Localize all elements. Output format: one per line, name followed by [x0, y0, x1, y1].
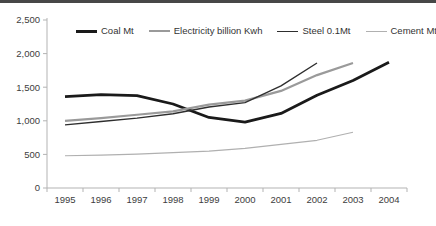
- legend-item-steel: Steel 0.1Mt: [277, 26, 350, 36]
- line-chart: 05001,0001,5002,0002,5001995199619971998…: [0, 0, 436, 226]
- x-tick-label: 1995: [54, 194, 75, 205]
- figure-page: 05001,0001,5002,0002,5001995199619971998…: [0, 0, 436, 226]
- x-tick-label: 2004: [378, 194, 399, 205]
- legend-label-electricity: Electricity billion Kwh: [174, 26, 263, 36]
- series-line-cement-mt: [65, 132, 353, 156]
- legend-label-cement: Cement Mt: [391, 26, 436, 36]
- x-tick-label: 2001: [270, 194, 291, 205]
- x-tick-label: 1999: [198, 194, 219, 205]
- legend-label-steel: Steel 0.1Mt: [302, 26, 350, 36]
- x-tick-label: 2002: [306, 194, 327, 205]
- y-tick-label: 2,000: [16, 48, 40, 59]
- series-line-coal-mt: [65, 62, 389, 122]
- x-tick-label: 1998: [162, 194, 183, 205]
- x-tick-label: 2000: [234, 194, 255, 205]
- legend-line-cement-icon: [366, 31, 387, 32]
- legend-item-electricity: Electricity billion Kwh: [149, 26, 263, 36]
- legend-item-cement: Cement Mt: [366, 26, 436, 36]
- chart-legend: Coal Mt Electricity billion Kwh Steel 0.…: [76, 26, 436, 36]
- y-tick-label: 500: [24, 149, 40, 160]
- y-tick-label: 1,000: [16, 115, 40, 126]
- legend-line-electricity-icon: [149, 30, 170, 32]
- x-tick-label: 1997: [126, 194, 147, 205]
- x-tick-label: 2003: [342, 194, 363, 205]
- legend-item-coal: Coal Mt: [76, 26, 134, 36]
- legend-label-coal: Coal Mt: [101, 26, 134, 36]
- y-tick-label: 1,500: [16, 82, 40, 93]
- x-tick-label: 1996: [90, 194, 111, 205]
- legend-line-steel-icon: [277, 31, 298, 32]
- legend-line-coal-icon: [76, 30, 97, 33]
- y-tick-label: 0: [35, 182, 40, 193]
- y-tick-label: 2,500: [16, 14, 40, 25]
- series-line-electricity-billion-kwh: [65, 63, 353, 121]
